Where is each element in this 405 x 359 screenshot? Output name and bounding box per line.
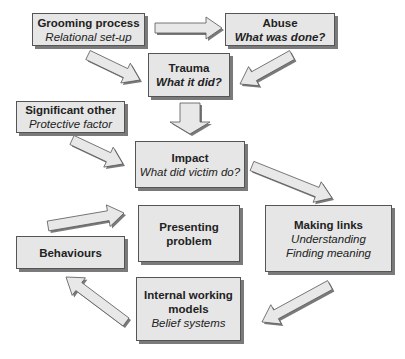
node-subtitle: What it did? (156, 75, 222, 89)
node-subtitle-line1: Understanding (291, 232, 366, 246)
node-subtitle: What did victim do? (140, 165, 240, 179)
node-grooming-process: Grooming process Relational set-up (32, 13, 145, 46)
node-trauma: Trauma What it did? (148, 53, 230, 97)
arrow-trauma-to-impact-icon (170, 103, 210, 134)
node-title: Impact (171, 151, 208, 165)
node-presenting-problem: Presenting problem (138, 205, 240, 262)
node-title: Significant other (25, 103, 116, 117)
node-title: Making links (294, 218, 363, 232)
node-impact: Impact What did victim do? (135, 141, 245, 188)
node-title: Abuse (262, 16, 297, 30)
node-title-line2: problem (166, 234, 211, 248)
node-subtitle: Belief systems (151, 316, 225, 330)
node-subtitle: What was done? (235, 30, 326, 44)
node-title-line1: Internal working (144, 288, 233, 302)
arrow-iwm-to-behaviours-icon (66, 277, 129, 326)
node-title: Grooming process (37, 16, 139, 30)
node-subtitle-line2: Finding meaning (286, 246, 371, 260)
node-title-line1: Presenting (159, 220, 218, 234)
node-title: Behaviours (39, 246, 102, 260)
node-title-line2: models (168, 302, 208, 316)
arrow-grooming-to-trauma-icon (86, 51, 140, 84)
arrow-abuse-to-trauma-icon (240, 51, 294, 86)
node-behaviours: Behaviours (16, 236, 125, 269)
arrow-significant-other-to-impact-icon (70, 136, 123, 168)
arrow-making-links-to-iwm-icon (262, 281, 332, 324)
arrow-impact-to-making-links-icon (250, 161, 332, 202)
node-internal-working-models: Internal working models Belief systems (136, 277, 241, 341)
node-significant-other: Significant other Protective factor (16, 101, 125, 133)
node-making-links: Making links Understanding Finding meani… (265, 205, 392, 272)
node-subtitle: Protective factor (29, 117, 112, 131)
node-abuse: Abuse What was done? (225, 13, 335, 46)
node-subtitle: Relational set-up (45, 30, 131, 44)
node-title: Trauma (169, 61, 210, 75)
